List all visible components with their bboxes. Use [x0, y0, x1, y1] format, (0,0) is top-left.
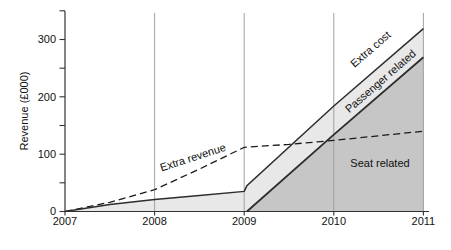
breakeven-area-chart: 0100200300 20072008200920102011 Revenue …: [0, 0, 451, 250]
y-tick-label-100: 100: [38, 148, 56, 160]
y-tick-labels: 0100200300: [38, 33, 56, 217]
label-seat-related: Seat related: [350, 157, 409, 169]
chart-canvas: 0100200300 20072008200920102011 Revenue …: [0, 0, 451, 250]
x-tick-label-2010: 2010: [322, 215, 346, 227]
x-tick-label-2008: 2008: [142, 215, 166, 227]
x-tick-labels: 20072008200920102011: [53, 215, 435, 227]
x-tick-label-2007: 2007: [53, 215, 77, 227]
x-tick-label-2009: 2009: [232, 215, 256, 227]
y-tick-label-200: 200: [38, 91, 56, 103]
label-extra-revenue: Extra revenue: [158, 141, 227, 174]
y-axis-title: Revenue (£000): [18, 72, 30, 151]
x-tick-label-2011: 2011: [412, 215, 436, 227]
y-tick-label-300: 300: [38, 33, 56, 45]
